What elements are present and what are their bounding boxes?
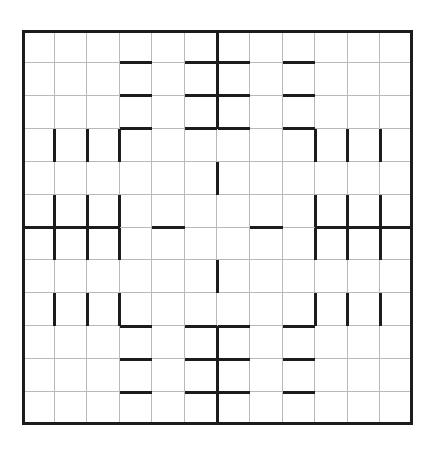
grid-cell-r4-c8[interactable] — [250, 129, 283, 162]
wall-vertical-r4-c11[interactable] — [379, 129, 382, 162]
grid-cell-r6-c10[interactable] — [315, 195, 348, 228]
grid-cell-r3-c4[interactable] — [120, 96, 153, 129]
wall-vertical-r6-c11[interactable] — [379, 195, 382, 228]
grid-cell-r6-c2[interactable] — [55, 195, 88, 228]
grid-cell-r7-c12[interactable] — [380, 228, 413, 261]
wall-horizontal-r1-c4[interactable] — [120, 61, 153, 64]
grid-cell-r9-c12[interactable] — [380, 293, 413, 326]
grid-cell-r11-c8[interactable] — [250, 359, 283, 392]
grid-cell-r12-c2[interactable] — [55, 392, 88, 425]
grid-cell-r1-c5[interactable] — [152, 30, 185, 63]
wall-vertical-r7-c10[interactable] — [346, 228, 349, 261]
grid-cell-r10-c6[interactable] — [185, 326, 218, 359]
wall-vertical-r3-c6[interactable] — [216, 96, 219, 129]
grid-cell-r3-c2[interactable] — [55, 96, 88, 129]
grid-cell-r3-c5[interactable] — [152, 96, 185, 129]
wall-vertical-r5-c6[interactable] — [216, 162, 219, 195]
grid-cell-r11-c3[interactable] — [87, 359, 120, 392]
grid-cell-r4-c11[interactable] — [348, 129, 381, 162]
grid-cell-r6-c8[interactable] — [250, 195, 283, 228]
grid-cell-r6-c7[interactable] — [217, 195, 250, 228]
grid-cell-r11-c9[interactable] — [283, 359, 316, 392]
grid-cell-r12-c4[interactable] — [120, 392, 153, 425]
grid-cell-r3-c10[interactable] — [315, 96, 348, 129]
grid-cell-r8-c4[interactable] — [120, 260, 153, 293]
grid-cell-r3-c6[interactable] — [185, 96, 218, 129]
grid-cell-r7-c2[interactable] — [55, 228, 88, 261]
grid-cell-r8-c11[interactable] — [348, 260, 381, 293]
grid-cell-r7-c4[interactable] — [120, 228, 153, 261]
wall-vertical-r9-c2[interactable] — [86, 293, 89, 326]
grid-cell-r7-c3[interactable] — [87, 228, 120, 261]
grid-cell-r1-c10[interactable] — [315, 30, 348, 63]
grid-cell-r11-c7[interactable] — [217, 359, 250, 392]
wall-vertical-r4-c3[interactable] — [118, 129, 121, 162]
wall-vertical-r6-c1[interactable] — [53, 195, 56, 228]
wall-vertical-r9-c1[interactable] — [53, 293, 56, 326]
wall-vertical-r4-c2[interactable] — [86, 129, 89, 162]
wall-vertical-r6-c3[interactable] — [118, 195, 121, 228]
grid-cell-r10-c1[interactable] — [22, 326, 55, 359]
grid-cell-r8-c7[interactable] — [217, 260, 250, 293]
wall-vertical-r9-c11[interactable] — [379, 293, 382, 326]
grid-cell-r12-c11[interactable] — [348, 392, 381, 425]
wall-vertical-r7-c2[interactable] — [86, 228, 89, 261]
grid-cell-r10-c12[interactable] — [380, 326, 413, 359]
grid-cell-r8-c12[interactable] — [380, 260, 413, 293]
wall-horizontal-r10-c7[interactable] — [218, 358, 251, 361]
wall-vertical-r4-c1[interactable] — [53, 129, 56, 162]
wall-horizontal-r6-c12[interactable] — [380, 226, 413, 229]
grid-cell-r9-c3[interactable] — [87, 293, 120, 326]
wall-vertical-r6-c9[interactable] — [314, 195, 317, 228]
grid-cell-r3-c9[interactable] — [283, 96, 316, 129]
grid-cell-r10-c2[interactable] — [55, 326, 88, 359]
wall-horizontal-r9-c9[interactable] — [283, 325, 316, 328]
wall-vertical-r4-c9[interactable] — [314, 129, 317, 162]
grid-cell-r8-c10[interactable] — [315, 260, 348, 293]
grid-cell-r4-c6[interactable] — [185, 129, 218, 162]
grid-cell-r10-c3[interactable] — [87, 326, 120, 359]
grid-cell-r12-c7[interactable] — [217, 392, 250, 425]
grid-cell-r5-c9[interactable] — [283, 162, 316, 195]
wall-horizontal-r1-c6[interactable] — [185, 61, 218, 64]
wall-vertical-r11-c6[interactable] — [216, 359, 219, 392]
wall-horizontal-r2-c6[interactable] — [185, 94, 218, 97]
wall-horizontal-r9-c6[interactable] — [185, 325, 218, 328]
wall-vertical-r7-c3[interactable] — [118, 228, 121, 261]
grid-cell-r1-c3[interactable] — [87, 30, 120, 63]
grid-cell-r11-c11[interactable] — [348, 359, 381, 392]
wall-vertical-r10-c6[interactable] — [216, 326, 219, 359]
wall-horizontal-r2-c4[interactable] — [120, 94, 153, 97]
grid-cell-r10-c5[interactable] — [152, 326, 185, 359]
grid-cell-r2-c2[interactable] — [55, 63, 88, 96]
wall-horizontal-r1-c9[interactable] — [283, 61, 316, 64]
wall-vertical-r9-c9[interactable] — [314, 293, 317, 326]
grid-cell-r5-c11[interactable] — [348, 162, 381, 195]
grid-cell-r9-c5[interactable] — [152, 293, 185, 326]
grid-cell-r2-c6[interactable] — [185, 63, 218, 96]
wall-horizontal-r6-c2[interactable] — [55, 226, 88, 229]
grid-cell-r8-c1[interactable] — [22, 260, 55, 293]
wall-vertical-r7-c11[interactable] — [379, 228, 382, 261]
wall-vertical-r6-c2[interactable] — [86, 195, 89, 228]
grid-cell-r8-c6[interactable] — [185, 260, 218, 293]
wall-horizontal-r9-c7[interactable] — [218, 325, 251, 328]
wall-horizontal-r6-c11[interactable] — [348, 226, 381, 229]
grid-cell-r2-c1[interactable] — [22, 63, 55, 96]
wall-vertical-r9-c10[interactable] — [346, 293, 349, 326]
grid-cell-r8-c2[interactable] — [55, 260, 88, 293]
grid-cell-r7-c7[interactable] — [217, 228, 250, 261]
grid-cell-r4-c12[interactable] — [380, 129, 413, 162]
grid-cell-r9-c7[interactable] — [217, 293, 250, 326]
grid-cell-r1-c12[interactable] — [380, 30, 413, 63]
puzzle-grid[interactable] — [22, 30, 413, 425]
wall-vertical-r7-c1[interactable] — [53, 228, 56, 261]
wall-horizontal-r1-c7[interactable] — [218, 61, 251, 64]
grid-cell-r5-c2[interactable] — [55, 162, 88, 195]
wall-vertical-r9-c3[interactable] — [118, 293, 121, 326]
grid-cell-r11-c4[interactable] — [120, 359, 153, 392]
grid-cell-r12-c1[interactable] — [22, 392, 55, 425]
grid-cell-r9-c6[interactable] — [185, 293, 218, 326]
grid-cell-r12-c9[interactable] — [283, 392, 316, 425]
grid-cell-r1-c8[interactable] — [250, 30, 283, 63]
